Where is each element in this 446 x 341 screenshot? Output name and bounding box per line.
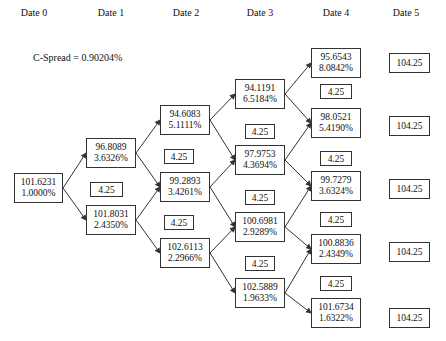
node-d3-2: 100.6981 2.9289% [235,212,285,242]
node-d5-0: 104.25 [389,53,430,73]
coupon-d3-1: 4.25 [245,190,275,205]
node-d1-1: 101.8031 2.4350% [86,205,136,235]
node-d3-1: 97.9753 4.3694% [235,145,285,175]
node-price: 96.8089 [87,142,135,153]
coupon-d1-0: 4.25 [90,182,123,197]
node-d4-0: 95.6543 8.0842% [311,48,361,78]
node-d3-3: 102.5889 1.9633% [235,278,285,308]
node-d0-0: 101.6231 1.0000% [14,173,63,203]
node-price: 101.8031 [87,209,135,220]
node-price: 99.7279 [312,175,360,186]
node-d4-3: 100.8836 2.4349% [311,234,361,264]
node-price: 102.6113 [161,242,209,253]
node-d4-1: 98.0521 5.4190% [311,108,361,138]
node-d5-1: 104.25 [389,116,430,136]
node-rate: 1.0000% [15,188,62,199]
coupon-d4-3: 4.25 [320,276,352,291]
node-price: 102.5889 [236,282,284,293]
coupon-d2-1: 4.25 [164,215,194,230]
node-price: 94.6083 [161,109,209,120]
node-price: 100.6981 [236,216,284,227]
node-rate: 3.6326% [87,153,135,164]
coupon-d4-2: 4.25 [320,212,352,227]
node-d2-0: 94.6083 5.1111% [160,105,210,135]
node-rate: 8.0842% [312,63,360,74]
node-rate: 5.1111% [161,120,209,131]
node-rate: 5.4190% [312,123,360,134]
node-d2-1: 99.2893 3.4261% [160,172,210,202]
node-rate: 2.4349% [312,249,360,260]
node-d5-3: 104.25 [389,242,430,262]
node-price: 98.0521 [312,112,360,123]
node-rate: 2.2966% [161,253,209,264]
node-d4-2: 99.7279 3.6324% [311,171,361,201]
node-rate: 1.9633% [236,293,284,304]
node-price: 100.8836 [312,238,360,249]
node-price: 101.6231 [15,177,62,188]
node-rate: 6.5184% [236,94,284,105]
node-d5-2: 104.25 [389,179,430,199]
node-d4-4: 101.6734 1.6322% [311,298,361,328]
node-rate: 1.6322% [312,313,360,324]
coupon-d3-2: 4.25 [245,256,275,271]
coupon-d2-0: 4.25 [164,149,194,164]
node-rate: 3.4261% [161,187,209,198]
node-price: 95.6543 [312,52,360,63]
coupon-d4-0: 4.25 [320,84,352,99]
node-rate: 2.9289% [236,227,284,238]
node-d1-0: 96.8089 3.6326% [86,138,136,168]
node-d3-0: 94.1191 6.5184% [235,79,285,109]
coupon-d4-1: 4.25 [320,151,352,166]
tree-edges [0,0,446,341]
node-price: 94.1191 [236,83,284,94]
node-rate: 4.3694% [236,160,284,171]
node-price: 99.2893 [161,176,209,187]
node-price: 101.6734 [312,302,360,313]
node-d2-2: 102.6113 2.2966% [160,238,210,268]
node-price: 97.9753 [236,149,284,160]
coupon-d3-0: 4.25 [245,124,275,139]
node-rate: 2.4350% [87,220,135,231]
node-rate: 3.6324% [312,186,360,197]
node-d5-4: 104.25 [389,308,430,328]
